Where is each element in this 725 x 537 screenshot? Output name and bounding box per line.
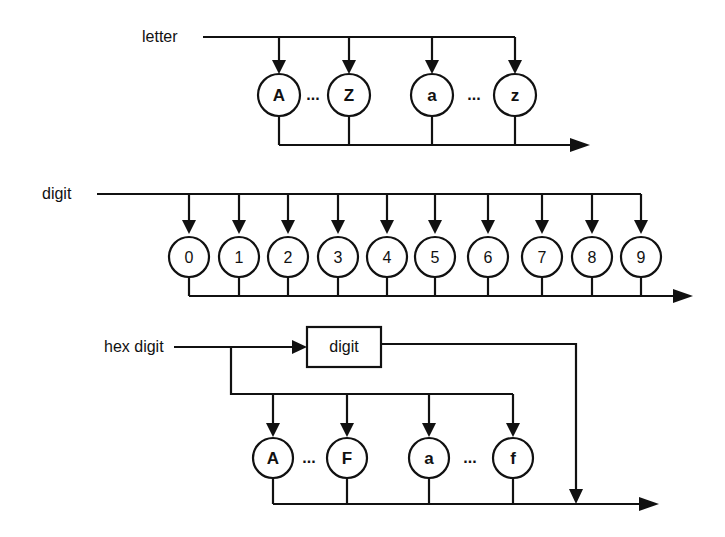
right-arrow-icon <box>292 340 307 354</box>
letter-branch-z: z <box>494 37 536 145</box>
down-arrow-icon <box>535 220 549 234</box>
letter-diagram: letter A Z a <box>142 28 590 152</box>
hex-branch-a: a <box>409 394 449 504</box>
down-arrow-icon <box>182 220 196 234</box>
ellipsis: ... <box>306 86 319 103</box>
node-label: a <box>424 449 434 468</box>
down-arrow-icon <box>508 60 522 74</box>
letter-branch-a: a <box>411 37 453 145</box>
letter-label: letter <box>142 28 178 45</box>
digit-branch-4: 4 <box>367 194 407 296</box>
digit-branch-1: 1 <box>219 194 259 296</box>
down-arrow-icon <box>569 489 583 504</box>
down-arrow-icon <box>380 220 394 234</box>
down-arrow-icon <box>506 423 520 437</box>
digit-branch-0: 0 <box>169 194 209 296</box>
down-arrow-icon <box>331 220 345 234</box>
hex-branch-F: F <box>327 394 367 504</box>
node-label: A <box>273 86 285 105</box>
digit-diagram: digit 0 1 2 3 <box>42 185 693 303</box>
digit-branch-7: 7 <box>522 194 562 296</box>
node-label: 8 <box>588 249 597 266</box>
down-arrow-icon <box>634 220 648 234</box>
down-arrow-icon <box>342 60 356 74</box>
node-label: 5 <box>431 249 440 266</box>
letter-branch-Z: Z <box>328 37 370 145</box>
digit-branch-5: 5 <box>415 194 455 296</box>
digit-branch-3: 3 <box>318 194 358 296</box>
node-label: A <box>267 449 279 468</box>
digit-label: digit <box>42 185 72 202</box>
node-label: Z <box>344 86 354 105</box>
node-label: f <box>510 449 516 468</box>
letter-exit-arrow-icon <box>570 138 590 152</box>
down-arrow-icon <box>266 423 280 437</box>
digit-branch-8: 8 <box>572 194 612 296</box>
digit-branch-9: 9 <box>621 194 661 296</box>
digit-branch-2: 2 <box>268 194 308 296</box>
down-arrow-icon <box>232 220 246 234</box>
node-label: 9 <box>637 249 646 266</box>
node-label: 1 <box>235 249 244 266</box>
down-arrow-icon <box>585 220 599 234</box>
ellipsis: ... <box>467 86 480 103</box>
node-label: 4 <box>383 249 392 266</box>
down-arrow-icon <box>272 60 286 74</box>
nonterminal-label: digit <box>329 338 359 355</box>
syntax-diagram: letter A Z a <box>0 0 725 537</box>
node-label: a <box>427 86 437 105</box>
node-label: 2 <box>284 249 293 266</box>
node-label: 0 <box>185 249 194 266</box>
hex-exit-arrow-icon <box>639 497 659 511</box>
hex-bypass-line <box>381 344 576 492</box>
down-arrow-icon <box>422 423 436 437</box>
down-arrow-icon <box>481 220 495 234</box>
hex-digit-label: hex digit <box>104 338 164 355</box>
ellipsis: ... <box>463 449 476 466</box>
hex-branch-A: A <box>253 394 293 504</box>
digit-branch-6: 6 <box>468 194 508 296</box>
down-arrow-icon <box>428 220 442 234</box>
node-label: 3 <box>334 249 343 266</box>
ellipsis: ... <box>302 449 315 466</box>
hex-branch-f: f <box>493 394 533 504</box>
node-label: 6 <box>484 249 493 266</box>
down-arrow-icon <box>281 220 295 234</box>
down-arrow-icon <box>425 60 439 74</box>
letter-branch-A: A <box>258 37 300 145</box>
node-label: 7 <box>538 249 547 266</box>
digit-exit-arrow-icon <box>673 289 693 303</box>
node-label: F <box>342 449 352 468</box>
node-label: z <box>511 86 520 105</box>
down-arrow-icon <box>340 423 354 437</box>
hex-digit-diagram: hex digit digit A F <box>104 327 659 511</box>
